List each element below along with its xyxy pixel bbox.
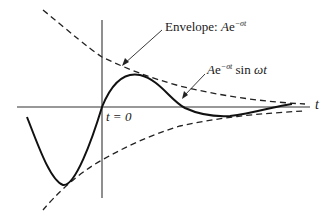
envelope-label: Envelope: Ae−σt xyxy=(165,19,246,35)
curve-omega-t: ωt xyxy=(254,62,267,77)
t-zero-label: t = 0 xyxy=(106,109,131,125)
curve-exponent: −σt xyxy=(221,62,233,71)
t-axis-label: t xyxy=(315,97,319,113)
envelope-label-text: Envelope: xyxy=(165,19,221,34)
curve-pointer xyxy=(184,74,205,96)
envelope-exponent: −σt xyxy=(235,19,247,28)
curve-amplitude: A xyxy=(207,62,215,77)
curve-label: Ae−σt sin ωt xyxy=(207,62,267,78)
curve-sin: sin xyxy=(232,62,254,77)
damped-sine-curve xyxy=(27,74,292,185)
envelope-amplitude: A xyxy=(221,19,229,34)
envelope-pointer xyxy=(124,30,162,64)
envelope-arrowhead xyxy=(122,58,129,66)
damped-sinusoid-diagram: Envelope: Ae−σt Ae−σt sin ωt t = 0 t xyxy=(0,0,334,220)
